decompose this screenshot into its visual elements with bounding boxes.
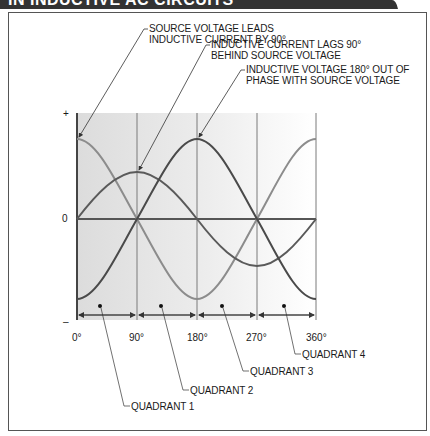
y-axis-zero-label: 0 xyxy=(62,213,68,224)
annotation-inductive-voltage: INDUCTIVE VOLTAGE 180° OUT OF PHASE WITH… xyxy=(246,64,409,86)
quadrant-3-label: QUADRANT 3 xyxy=(250,366,313,377)
quadrant-2-label: QUADRANT 2 xyxy=(190,385,253,396)
x-tick-0: 0° xyxy=(72,332,82,343)
x-tick-360: 360° xyxy=(306,332,327,343)
x-tick-90: 90° xyxy=(129,332,144,343)
x-tick-180: 180° xyxy=(187,332,208,343)
y-axis-minus-label: – xyxy=(63,316,69,327)
quadrant-1-label: QUADRANT 1 xyxy=(131,401,194,412)
x-tick-270: 270° xyxy=(246,332,267,343)
y-axis-plus-label: + xyxy=(63,108,69,119)
annotation-current-lags: INDUCTIVE CURRENT LAGS 90° BEHIND SOURCE… xyxy=(211,39,361,61)
quadrant-4-label: QUADRANT 4 xyxy=(302,349,365,360)
